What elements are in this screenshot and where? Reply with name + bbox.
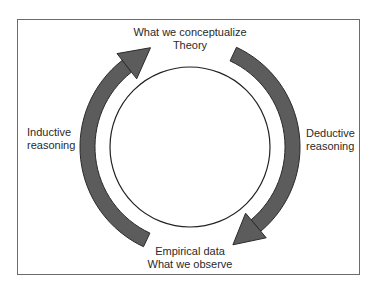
inductive-line2: reasoning	[27, 139, 75, 152]
theory-line2: Theory	[110, 39, 270, 52]
inductive-line1: Inductive	[27, 126, 75, 139]
inductive-arrow-icon	[80, 48, 151, 247]
empirical-label: Empirical data What we observe	[110, 245, 270, 271]
inner-circle	[110, 67, 270, 227]
deductive-label: Deductive reasoning	[306, 127, 355, 153]
empirical-line1: Empirical data	[110, 245, 270, 258]
inductive-label: Inductive reasoning	[27, 126, 75, 152]
theory-line1: What we conceptualize	[110, 26, 270, 39]
theory-label: What we conceptualize Theory	[110, 26, 270, 52]
deductive-line1: Deductive	[306, 127, 355, 140]
empirical-line2: What we observe	[110, 258, 270, 271]
deductive-arrow-icon	[230, 47, 300, 245]
deductive-line2: reasoning	[306, 140, 355, 153]
